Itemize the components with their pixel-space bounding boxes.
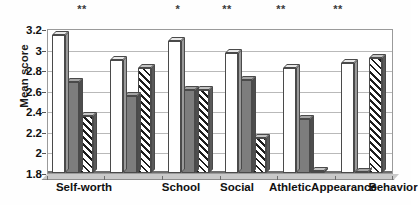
significance-marker: * (176, 2, 181, 16)
x-axis-category-label: Self-worth (56, 181, 112, 194)
bar-side-3d (354, 59, 358, 173)
significance-markers: ** * ** ** ** (0, 0, 411, 26)
y-tick-mark (42, 92, 46, 93)
y-tick-mark (42, 112, 46, 113)
bar (168, 41, 181, 173)
bar-side-3d (296, 64, 300, 173)
bar-side-3d (382, 54, 386, 173)
bar-side-3d (181, 37, 185, 173)
bar-side-3d (310, 115, 314, 173)
bar-side-3d (238, 49, 242, 173)
bar (52, 35, 65, 173)
x-tick-mark (277, 176, 278, 180)
bar-face (110, 60, 123, 173)
significance-marker: ** (333, 2, 343, 16)
bar-side-3d (252, 76, 256, 173)
bar-side-3d (195, 86, 199, 173)
x-tick-mark (220, 176, 221, 180)
y-tick-mark (42, 133, 46, 134)
bar (225, 53, 238, 173)
plot-area (47, 29, 393, 174)
bar-side-3d (123, 56, 127, 173)
x-axis-category-label: Appearance (311, 181, 377, 194)
bar (341, 63, 354, 173)
bar-side-3d (266, 134, 270, 173)
y-axis: 3.2 3 2.8 2.6 2.4 2.2 2 1.8 (10, 0, 42, 205)
bar-face (369, 58, 382, 173)
bar-face (311, 171, 324, 173)
bar (311, 171, 324, 173)
x-axis-category-label: School (162, 181, 200, 194)
x-tick-mark (47, 176, 48, 180)
bar-face (52, 35, 65, 173)
x-tick-mark (392, 176, 393, 180)
bar (110, 60, 123, 173)
bar-side-3d (209, 86, 213, 173)
x-axis-category-label: Athletic (269, 181, 311, 194)
bar-face (225, 53, 238, 173)
y-tick-label: 2.2 (16, 127, 42, 138)
x-tick-mark (104, 176, 105, 180)
y-tick-label: 2 (16, 148, 42, 159)
bar-face (355, 171, 368, 173)
bar-side-3d (137, 92, 141, 173)
y-tick-label: 2.8 (16, 66, 42, 77)
bar-face (341, 63, 354, 173)
bar (283, 68, 296, 173)
bar-side-3d (151, 64, 155, 173)
y-tick-label: 1.8 (16, 168, 42, 179)
bar-side-3d (65, 31, 69, 173)
x-tick-mark (162, 176, 163, 180)
y-tick-mark (42, 153, 46, 154)
significance-marker: ** (276, 2, 286, 16)
y-tick-mark (42, 71, 46, 72)
gridline (48, 51, 392, 52)
significance-marker: ** (77, 2, 87, 16)
y-tick-label: 3.2 (16, 25, 42, 36)
significance-marker: ** (222, 2, 232, 16)
y-tick-label: 2.4 (16, 107, 42, 118)
bar (369, 58, 382, 173)
bar-side-3d (79, 78, 83, 173)
x-axis-category-label: Behavior (368, 181, 417, 194)
x-axis-category-label: Social (220, 181, 254, 194)
bar-face (283, 68, 296, 173)
y-tick-label: 2.6 (16, 86, 42, 97)
bar (355, 172, 368, 174)
bar-face (168, 41, 181, 173)
y-tick-label: 3 (16, 45, 42, 56)
x-tick-mark (335, 176, 336, 180)
bar-side-3d (93, 112, 97, 173)
y-tick-mark (42, 30, 46, 31)
y-tick-mark (42, 51, 46, 52)
